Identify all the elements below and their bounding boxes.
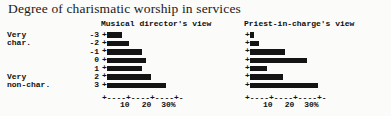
panel-priest-in-charge-plot: + + + + + + + xyxy=(245,31,377,93)
bar-musical-4 xyxy=(107,66,142,71)
bar-row: + xyxy=(245,73,377,81)
bar-musical-2 xyxy=(107,49,142,54)
bar-row: + xyxy=(102,73,234,81)
scale-row-6: non-char. 3 xyxy=(7,81,99,89)
bar-row: + xyxy=(102,31,234,39)
bar-musical-0 xyxy=(107,32,122,37)
bar-musical-5 xyxy=(107,74,151,79)
bar-row: + xyxy=(102,48,234,56)
xtick-10: 10 xyxy=(120,100,130,109)
scale-row-1-text: char. xyxy=(7,39,31,47)
xtick-30: 30% xyxy=(304,100,318,109)
scale-row-2: -1 xyxy=(7,48,99,56)
figure-chart-charismatic-worship: Degree of charismatic worship in service… xyxy=(0,0,391,116)
bar-row: + xyxy=(245,48,377,56)
page-title: Degree of charismatic worship in service… xyxy=(8,1,241,17)
bar-row: + xyxy=(245,81,377,89)
panel-priest-in-charge-title: Priest-in-charge's view xyxy=(244,19,354,28)
bar-priest-3 xyxy=(250,58,307,63)
panel-musical-director-plot: + + + + + + + xyxy=(102,31,234,93)
bar-priest-1 xyxy=(250,41,259,46)
scale-row-1: char. -2 xyxy=(7,39,99,47)
xtick-30: 30% xyxy=(161,100,175,109)
bar-row: + xyxy=(245,39,377,47)
scale-row-3: 0 xyxy=(7,56,99,64)
bar-priest-5 xyxy=(250,74,283,79)
panel-musical-director-xticks: 10 20 30% xyxy=(102,100,242,110)
bar-row: + xyxy=(102,65,234,73)
bar-priest-0 xyxy=(250,32,254,37)
scale-row-6-text: non-char. xyxy=(7,81,50,89)
bar-row: + xyxy=(102,56,234,64)
bar-priest-4 xyxy=(250,66,267,71)
bar-priest-6 xyxy=(250,83,318,88)
panel-musical-director-title: Musical director's view xyxy=(101,19,211,28)
bar-row: + xyxy=(245,31,377,39)
scale-row-labels: Very -3 char. -2 -1 0 1 Very 2 non-char.… xyxy=(7,31,99,90)
panel-priest-in-charge-xticks: 10 20 30% xyxy=(245,100,385,110)
bar-musical-6 xyxy=(107,83,166,88)
scale-row-6-value: 3 xyxy=(94,81,99,89)
xtick-20: 20 xyxy=(142,100,152,109)
bar-row: + xyxy=(102,81,234,89)
bar-musical-1 xyxy=(107,41,129,46)
bar-priest-2 xyxy=(250,49,285,54)
bar-row: + xyxy=(102,39,234,47)
xtick-10: 10 xyxy=(263,100,273,109)
xtick-20: 20 xyxy=(285,100,295,109)
bar-musical-3 xyxy=(107,58,146,63)
bar-row: + xyxy=(245,65,377,73)
bar-row: + xyxy=(245,56,377,64)
